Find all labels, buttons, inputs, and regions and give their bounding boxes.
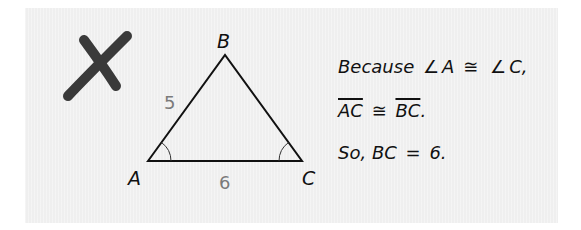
vertex-label-c: C [302, 167, 316, 189]
angle-symbol: ∠ [487, 56, 509, 77]
vertex-label-a: A [126, 167, 141, 189]
segment-ac: AC [338, 100, 363, 121]
angle-mark-a [162, 143, 172, 162]
incorrect-x-mark-icon [68, 36, 127, 96]
angle-mark-c [279, 143, 289, 162]
because-word: Because [338, 56, 414, 77]
bc-value: 6 [429, 142, 440, 163]
reasoning-line-2: AC ≅ BC. [338, 102, 426, 120]
congruent-symbol: ≅ [460, 56, 481, 77]
reasoning-line-1: Because ∠A ≅ ∠C, [338, 58, 527, 76]
reasoning-line-3: So, BC = 6. [338, 144, 447, 162]
period: . [420, 100, 426, 121]
congruent-symbol: ≅ [369, 100, 390, 121]
period: . [441, 142, 447, 163]
angle-a: A [442, 56, 454, 77]
so-word: So, [338, 142, 366, 163]
angle-c: C [509, 56, 522, 77]
equals-symbol: = [403, 142, 424, 163]
side-label-ab: 5 [164, 92, 175, 113]
comma: , [522, 56, 528, 77]
side-label-ac: 6 [219, 172, 230, 193]
segment-bc: BC [395, 100, 420, 121]
triangle-diagram: B A C 5 6 [0, 0, 581, 230]
segment-bc: BC [372, 142, 397, 163]
vertex-label-b: B [217, 30, 230, 52]
angle-symbol: ∠ [420, 56, 442, 77]
